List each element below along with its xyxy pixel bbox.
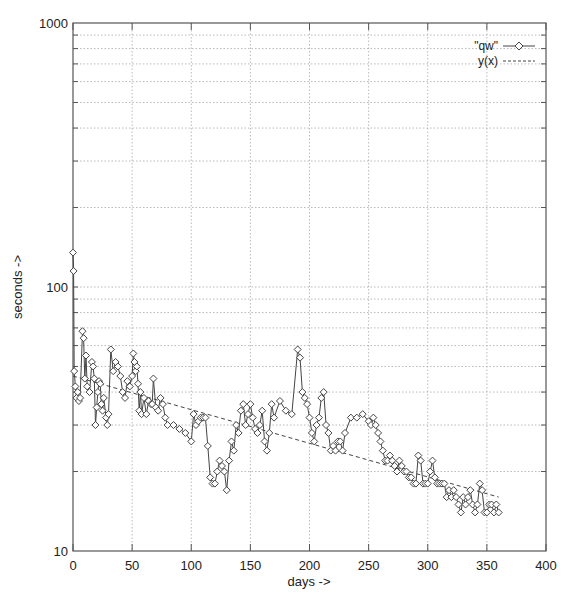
diamond-marker-icon [70, 267, 77, 274]
diamond-marker-icon [282, 407, 289, 414]
diamond-marker-icon [457, 509, 464, 516]
diamond-marker-icon [341, 429, 348, 436]
y-tick-label: 1000 [39, 16, 68, 31]
diamond-marker-icon [313, 422, 320, 429]
diamond-marker-icon [70, 249, 77, 256]
diamond-marker-icon [176, 425, 183, 432]
diamond-marker-icon [92, 422, 99, 429]
diamond-marker-icon [204, 442, 211, 449]
diamond-marker-icon [377, 438, 384, 445]
diamond-marker-icon [170, 422, 177, 429]
diamond-marker-icon [266, 429, 273, 436]
diamond-marker-icon [247, 401, 254, 408]
diamond-marker-icon [375, 429, 382, 436]
x-tick-label: 150 [240, 558, 262, 573]
diamond-marker-icon [372, 422, 379, 429]
diamond-marker-icon [79, 328, 86, 335]
x-tick-label: 350 [476, 558, 498, 573]
diamond-marker-icon [427, 468, 434, 475]
diamond-marker-icon [110, 368, 117, 375]
diamond-marker-icon [80, 335, 87, 342]
grid-lines [73, 23, 546, 551]
x-tick-label: 200 [299, 558, 321, 573]
diamond-marker-icon [450, 487, 457, 494]
diamond-marker-icon [135, 380, 142, 387]
diamond-marker-icon [453, 494, 460, 501]
diamond-marker-icon [379, 447, 386, 454]
x-tick-label: 0 [69, 558, 76, 573]
diamond-marker-icon [228, 438, 235, 445]
diamond-marker-icon [150, 375, 157, 382]
x-axis-label: days -> [288, 574, 331, 589]
diamond-marker-icon [107, 346, 114, 353]
diamond-marker-icon [104, 422, 111, 429]
x-tick-label: 300 [417, 558, 439, 573]
diamond-marker-icon [162, 414, 169, 421]
diamond-marker-icon [242, 422, 249, 429]
diamond-marker-icon [259, 407, 266, 414]
diamond-marker-icon [230, 447, 237, 454]
legend-label-fit: y(x) [478, 54, 498, 68]
diamond-marker-icon [263, 447, 270, 454]
diamond-marker-icon [315, 414, 322, 421]
plot-area: 050100150200250300350400100010010 second… [0, 0, 570, 604]
y-axis-label: seconds -> [10, 255, 25, 319]
diamond-marker-icon [455, 501, 462, 508]
diamond-marker-icon [467, 487, 474, 494]
diamond-marker-icon [143, 411, 150, 418]
x-tick-label: 250 [358, 558, 380, 573]
diamond-marker-icon [323, 422, 330, 429]
diamond-marker-icon [261, 438, 268, 445]
diamond-marker-icon [226, 457, 233, 464]
x-tick-label: 400 [535, 558, 557, 573]
x-tick-label: 100 [180, 558, 202, 573]
y-tick-label: 10 [54, 544, 68, 559]
diamond-marker-icon [472, 509, 479, 516]
qw-data-series [70, 249, 503, 516]
diamond-marker-icon [214, 468, 221, 475]
diamond-marker-icon [464, 494, 471, 501]
diamond-marker-icon [474, 501, 481, 508]
legend-label-qw: "qw" [474, 39, 498, 53]
diamond-marker-icon [268, 401, 275, 408]
diamond-marker-icon [493, 501, 500, 508]
diamond-marker-icon [308, 429, 315, 436]
y-tick-label: 100 [46, 280, 68, 295]
diamond-marker-icon [353, 414, 360, 421]
diamond-marker-icon [188, 438, 195, 445]
diamond-marker-icon [130, 350, 137, 357]
diamond-marker-icon [288, 411, 295, 418]
diamond-marker-icon [462, 501, 469, 508]
diamond-marker-icon [495, 509, 502, 516]
diamond-marker-icon [294, 346, 301, 353]
diamond-marker-icon [271, 414, 278, 421]
diamond-marker-icon [325, 429, 332, 436]
diamond-marker-icon [276, 397, 283, 404]
diamond-marker-icon [182, 429, 189, 436]
diamond-marker-icon [71, 368, 78, 375]
chart: 050100150200250300350400100010010 second… [0, 0, 570, 604]
diamond-marker-icon [306, 414, 313, 421]
x-tick-label: 50 [125, 558, 139, 573]
diamond-marker-icon [429, 457, 436, 464]
diamond-marker-icon [223, 487, 230, 494]
diamond-marker-icon [117, 373, 124, 380]
